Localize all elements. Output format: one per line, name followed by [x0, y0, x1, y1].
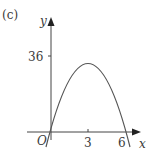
x-axis-label: x: [139, 137, 146, 151]
x-axis-arrow-icon: [132, 129, 141, 136]
y-tick-label-36: 36: [28, 50, 43, 64]
x-tick-label-6: 6: [118, 136, 126, 150]
x-tick-label-3: 3: [84, 136, 92, 150]
origin-label: O: [37, 134, 47, 148]
part-label: (c): [2, 8, 18, 22]
y-axis-label: y: [39, 14, 47, 28]
parabola-chart: (c) y x 36 3 6 O: [0, 0, 151, 166]
y-axis-arrow-icon: [48, 17, 55, 26]
parabola-curve: [46, 64, 130, 148]
